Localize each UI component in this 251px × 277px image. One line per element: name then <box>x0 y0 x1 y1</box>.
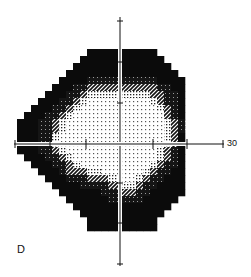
field-cell <box>59 168 66 175</box>
field-cell <box>17 126 24 133</box>
field-cell <box>122 84 129 91</box>
field-cell <box>157 63 164 70</box>
field-cell <box>178 91 185 98</box>
field-cell <box>157 168 164 175</box>
field-cell <box>171 133 178 140</box>
field-cell <box>129 147 136 154</box>
field-cell <box>80 112 87 119</box>
field-cell <box>38 119 45 126</box>
field-cell <box>150 49 157 56</box>
field-cell <box>101 224 108 231</box>
field-cell <box>73 105 80 112</box>
field-cell <box>171 182 178 189</box>
field-cell <box>136 63 143 70</box>
field-cell <box>31 154 38 161</box>
field-cell <box>129 126 136 133</box>
field-cell <box>101 203 108 210</box>
field-cell <box>171 154 178 161</box>
field-cell <box>122 91 129 98</box>
field-cell <box>101 154 108 161</box>
field-cell <box>66 70 73 77</box>
field-cell <box>24 154 31 161</box>
field-cell <box>178 126 185 133</box>
field-cell <box>73 175 80 182</box>
field-cell <box>108 105 115 112</box>
field-cell <box>122 154 129 161</box>
field-cell <box>164 203 171 210</box>
field-cell <box>66 77 73 84</box>
field-cell <box>31 126 38 133</box>
field-cell <box>122 189 129 196</box>
panel-label: D <box>17 243 25 255</box>
field-cell <box>87 77 94 84</box>
field-cell <box>87 84 94 91</box>
field-cell <box>38 112 45 119</box>
field-cell <box>178 105 185 112</box>
field-cell <box>101 126 108 133</box>
field-cell <box>150 224 157 231</box>
field-cell <box>164 119 171 126</box>
field-cell <box>171 189 178 196</box>
field-cell <box>38 161 45 168</box>
field-cell <box>150 84 157 91</box>
field-cell <box>87 98 94 105</box>
field-cell <box>24 119 31 126</box>
field-cell <box>66 161 73 168</box>
field-cell <box>122 126 129 133</box>
field-cell <box>45 175 52 182</box>
field-cell <box>136 175 143 182</box>
field-cell <box>52 119 59 126</box>
field-cell <box>59 98 66 105</box>
field-cell <box>52 105 59 112</box>
field-cell <box>94 175 101 182</box>
field-cell <box>136 182 143 189</box>
field-cell <box>150 126 157 133</box>
field-cell <box>164 189 171 196</box>
field-cell <box>66 84 73 91</box>
field-cell <box>150 147 157 154</box>
field-cell <box>143 49 150 56</box>
field-cell <box>178 154 185 161</box>
field-cell <box>73 189 80 196</box>
field-cell <box>80 154 87 161</box>
field-cell <box>66 196 73 203</box>
field-cell <box>45 119 52 126</box>
field-cell <box>59 91 66 98</box>
field-cell <box>143 189 150 196</box>
field-cell <box>164 91 171 98</box>
field-cell <box>150 119 157 126</box>
field-cell <box>178 112 185 119</box>
field-cell <box>143 126 150 133</box>
field-cell <box>66 154 73 161</box>
field-cell <box>87 63 94 70</box>
field-cell <box>38 105 45 112</box>
field-cell <box>66 112 73 119</box>
field-cell <box>157 119 164 126</box>
field-cell <box>94 210 101 217</box>
field-cell <box>150 154 157 161</box>
field-cell <box>157 91 164 98</box>
field-cell <box>52 161 59 168</box>
field-cell <box>101 119 108 126</box>
field-cell <box>164 63 171 70</box>
field-cell <box>150 203 157 210</box>
field-cell <box>136 133 143 140</box>
field-cell <box>87 56 94 63</box>
field-cell <box>164 112 171 119</box>
field-cell <box>101 189 108 196</box>
field-cell <box>73 77 80 84</box>
field-cell <box>66 119 73 126</box>
field-cell <box>150 189 157 196</box>
field-cell <box>122 182 129 189</box>
field-cell <box>94 133 101 140</box>
field-cell <box>101 49 108 56</box>
field-cell <box>101 217 108 224</box>
field-cell <box>73 182 80 189</box>
field-cell <box>66 126 73 133</box>
field-cell <box>122 217 129 224</box>
field-cell <box>108 182 115 189</box>
field-cell <box>108 196 115 203</box>
field-cell <box>129 63 136 70</box>
field-cell <box>59 112 66 119</box>
field-cell <box>136 154 143 161</box>
